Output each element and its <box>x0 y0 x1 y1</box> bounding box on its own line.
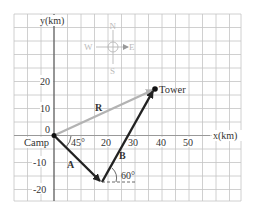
svg-text:50: 50 <box>183 137 193 148</box>
camp-label: Camp <box>24 137 49 148</box>
svg-text:-10: -10 <box>33 157 46 168</box>
vector-r <box>54 90 153 136</box>
angle-arc-60 <box>112 168 117 182</box>
y-axis-label: y(km) <box>40 15 64 27</box>
vector-diagram: N S W E y(km) x(km) 20 30 40 50 20 10 0 … <box>0 0 255 215</box>
svg-text:0: 0 <box>45 124 50 135</box>
compass-west: W <box>84 42 93 52</box>
compass-east: E <box>129 42 135 52</box>
vector-a-label: A <box>67 159 75 170</box>
angle-60-label: 60° <box>121 170 135 181</box>
svg-text:10: 10 <box>40 103 50 114</box>
compass-icon <box>96 30 128 64</box>
svg-text:30: 30 <box>128 137 138 148</box>
tower-point <box>152 86 158 92</box>
x-tick-labels: 20 30 40 50 <box>100 137 198 148</box>
angle-45-label: 45° <box>71 137 85 148</box>
svg-text:-20: -20 <box>33 184 46 195</box>
svg-text:40: 40 <box>156 137 166 148</box>
compass-north: N <box>110 21 117 31</box>
svg-text:20: 20 <box>40 76 50 87</box>
x-axis-label: x(km) <box>213 130 237 142</box>
vector-r-label: R <box>95 102 103 113</box>
camp-point <box>52 133 57 138</box>
vector-b-label: B <box>119 150 126 161</box>
svg-text:20: 20 <box>101 137 111 148</box>
tower-label: Tower <box>159 84 186 95</box>
compass-south: S <box>110 66 115 76</box>
